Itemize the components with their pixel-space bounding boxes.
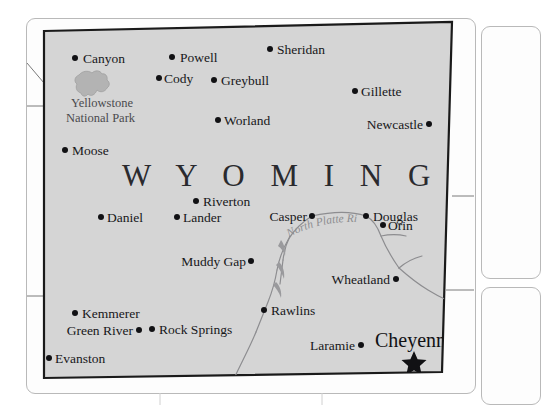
city-newcastle[interactable]: Newcastle [367, 117, 432, 132]
city-dot-icon [380, 222, 386, 228]
city-dot-icon [193, 198, 199, 204]
city-worland[interactable]: Worland [215, 113, 270, 128]
city-label: Sheridan [277, 42, 325, 57]
city-dot-icon [426, 121, 432, 127]
city-label: Kemmerer [82, 306, 140, 321]
park-label-line1: Yellowstone [71, 96, 133, 110]
city-dot-icon [358, 342, 364, 348]
city-dot-icon [248, 258, 254, 264]
city-dot-icon [72, 310, 78, 316]
city-label: Orin [388, 218, 413, 233]
city-dot-icon [363, 213, 369, 219]
city-dot-icon [267, 46, 273, 52]
city-label: Rock Springs [159, 322, 232, 337]
city-label: Cody [164, 71, 194, 86]
city-dot-icon [136, 327, 142, 333]
city-dot-icon [156, 75, 162, 81]
state-name-label: W Y O M I N G [122, 158, 439, 193]
city-label: Green River [67, 323, 134, 338]
city-dot-icon [393, 276, 399, 282]
city-dot-icon [149, 326, 155, 332]
city-label: Rawlins [271, 303, 315, 318]
city-dot-icon [215, 117, 221, 123]
city-label: Laramie [310, 338, 355, 353]
city-label: Canyon [83, 51, 125, 66]
city-label: Moose [72, 143, 109, 158]
city-label: Newcastle [367, 117, 423, 132]
city-dot-icon [352, 88, 358, 94]
city-label: Evanston [55, 351, 105, 366]
city-dot-icon [46, 355, 52, 361]
city-wheatland[interactable]: Wheatland [332, 272, 399, 287]
city-muddy-gap[interactable]: Muddy Gap [181, 254, 254, 269]
city-label: Powell [180, 50, 218, 65]
city-dot-icon [211, 77, 217, 83]
park-label-line2: National Park [66, 111, 136, 125]
city-label: Riverton [203, 194, 250, 209]
city-dot-icon [62, 147, 68, 153]
city-evanston[interactable]: Evanston [46, 351, 105, 366]
city-label: Muddy Gap [181, 254, 246, 269]
city-label: Casper [270, 209, 308, 224]
city-dot-icon [261, 307, 267, 313]
city-label: Worland [224, 113, 270, 128]
city-green-river[interactable]: Green River [67, 323, 142, 338]
city-dot-icon [169, 54, 175, 60]
city-kemmerer[interactable]: Kemmerer [72, 306, 140, 321]
city-rock-springs[interactable]: Rock Springs [149, 322, 232, 337]
city-label: Daniel [107, 210, 143, 225]
city-label: Wheatland [332, 272, 391, 287]
city-label: Lander [183, 210, 222, 225]
city-label: Greybull [221, 73, 269, 88]
city-dot-icon [309, 213, 315, 219]
city-dot-icon [174, 214, 180, 220]
city-dot-icon [98, 214, 104, 220]
city-label: Gillette [361, 84, 402, 99]
city-dot-icon [72, 55, 78, 61]
